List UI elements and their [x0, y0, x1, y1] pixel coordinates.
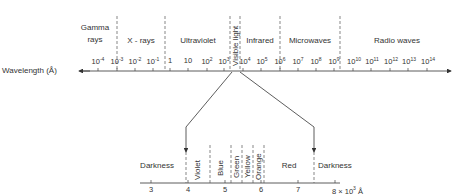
- band-xrays: X - rays: [127, 36, 155, 45]
- band-infrared: Infrared: [246, 36, 274, 45]
- tick-label: 10: [184, 56, 192, 65]
- region-violet: Violet: [193, 160, 202, 180]
- tick-label: 1012: [384, 56, 398, 66]
- tick-label: 103: [218, 56, 229, 66]
- tick-label: 107: [292, 56, 303, 66]
- tick-label: 10-3: [111, 56, 124, 66]
- bottom-tick-label: 4: [186, 185, 190, 194]
- tick-label: 10-2: [129, 56, 142, 66]
- tick-label: 1014: [421, 56, 435, 66]
- tick-label: 104: [239, 56, 250, 66]
- tick-label: 108: [310, 56, 321, 66]
- band-gamma-line1: Gamma: [81, 23, 109, 32]
- tick-label: 1010: [347, 56, 361, 66]
- tick-label: 10-1: [147, 56, 160, 66]
- region-green: Green: [232, 156, 241, 178]
- tick-label: 1013: [402, 56, 416, 66]
- region-yellow: Yellow: [243, 155, 252, 178]
- bottom-tick-label: 6: [259, 185, 263, 194]
- tick-label: 1011: [365, 56, 379, 66]
- wavelength-axis-label: Wavelength (Å): [2, 66, 57, 75]
- bottom-tick-label: 5: [223, 185, 227, 194]
- band-ultraviolet: Ultraviolet: [180, 36, 216, 45]
- tick-label: 109: [328, 56, 339, 66]
- tick-label: 102: [201, 56, 212, 66]
- bottom-tick-label: 7: [296, 185, 300, 194]
- bottom-tick-label-last: 8 × 103 Å: [332, 184, 363, 195]
- tick-label: 10-4: [92, 56, 105, 66]
- tick-label: 105: [256, 56, 267, 66]
- region-orange: Orange: [254, 153, 263, 180]
- tick-label: 1: [168, 56, 172, 65]
- band-radio-waves: Radio waves: [374, 36, 420, 45]
- bottom-tick-label: 3: [149, 185, 153, 194]
- band-microwaves: Microwaves: [289, 36, 331, 45]
- tick-label: 106: [274, 56, 285, 66]
- region-red: Red: [282, 161, 297, 170]
- band-gamma-line2: rays: [87, 35, 102, 44]
- region-blue: Blue: [216, 160, 225, 176]
- region-darkness-left: Darkness: [140, 161, 174, 170]
- region-darkness-right: Darkness: [318, 161, 352, 170]
